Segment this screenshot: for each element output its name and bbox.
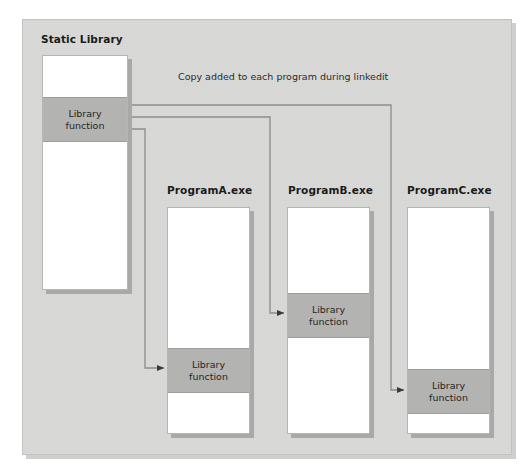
- band-label-line2: function: [66, 120, 105, 132]
- programB-function-band: Library function: [288, 293, 369, 338]
- programA-body: Library function: [167, 207, 250, 434]
- static-library-function-band: Library function: [43, 97, 127, 142]
- static-library-body: Library function: [42, 55, 128, 290]
- linkedit-caption: Copy added to each program during linked…: [178, 71, 388, 82]
- band-label-line1: Library: [68, 108, 101, 120]
- diagram-canvas: Static Library Library function Copy add…: [0, 0, 529, 473]
- programA-function-band: Library function: [168, 348, 249, 393]
- programC-body: Library function: [407, 207, 490, 434]
- static-library-module: Library function: [42, 55, 128, 290]
- band-label-line2: function: [189, 371, 228, 383]
- band-label-line1: Library: [432, 380, 465, 392]
- programC-title: ProgramC.exe: [407, 184, 492, 196]
- programA-title: ProgramA.exe: [167, 184, 252, 196]
- band-label-line2: function: [309, 316, 348, 328]
- programC-function-band: Library function: [408, 369, 489, 414]
- programB-title: ProgramB.exe: [288, 184, 373, 196]
- band-label-line1: Library: [312, 304, 345, 316]
- programC-module: Library function: [407, 207, 490, 434]
- programA-module: Library function: [167, 207, 250, 434]
- band-label-line2: function: [429, 392, 468, 404]
- band-label-line1: Library: [192, 359, 225, 371]
- programB-module: Library function: [287, 207, 370, 434]
- static-library-title: Static Library: [41, 33, 123, 45]
- programB-body: Library function: [287, 207, 370, 434]
